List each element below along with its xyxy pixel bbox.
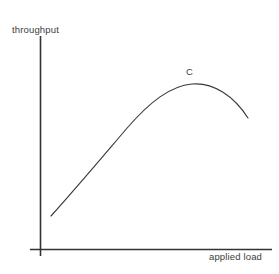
- x-axis-label: applied load: [209, 252, 262, 262]
- peak-point-label-c: C: [186, 67, 193, 77]
- chart-figure: throughput applied load C: [0, 0, 279, 274]
- y-axis-label: throughput: [12, 25, 59, 35]
- throughput-curve: [51, 84, 248, 216]
- throughput-vs-load-plot: [0, 0, 279, 274]
